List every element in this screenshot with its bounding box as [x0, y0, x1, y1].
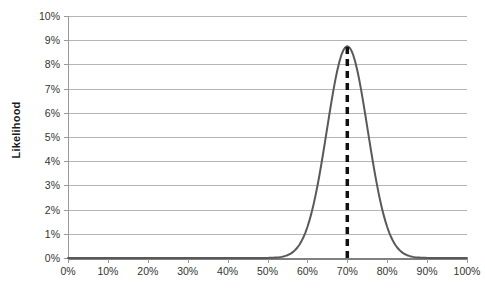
- likelihood-curve: [68, 46, 467, 258]
- likelihood-chart: Likelihood 0%1%2%3%4%5%6%7%8%9%10%0%10%2…: [0, 0, 485, 289]
- series-overlay: [0, 0, 485, 289]
